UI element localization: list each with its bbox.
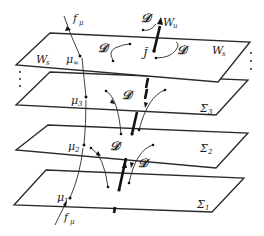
mu-1-point <box>69 197 72 200</box>
sigma-2-sub: 2 <box>207 148 213 156</box>
d-point <box>112 60 115 63</box>
sigma-3-sub: 3 <box>208 108 213 116</box>
d-point <box>107 186 110 189</box>
mu-3-point <box>85 96 88 99</box>
ellipsis-right-icon <box>250 52 252 70</box>
mu-2-sub: 2 <box>74 146 80 154</box>
f-mu-top-label: f <box>72 12 79 25</box>
mu-inf-point <box>79 55 82 58</box>
d-point <box>105 90 108 93</box>
f-mu-bottom-label: f <box>63 211 70 224</box>
segment-point <box>117 188 120 191</box>
d-point <box>90 147 93 150</box>
stable-segment-4 <box>114 207 115 213</box>
d-point <box>129 43 132 46</box>
d-point <box>164 89 167 92</box>
sigma-3-label: Σ <box>199 102 208 115</box>
mu-2-point <box>83 144 86 147</box>
ws-left-sub: s <box>46 59 50 67</box>
d-point <box>142 29 144 31</box>
d-point <box>138 129 141 132</box>
plane-sigma-1 <box>14 170 244 212</box>
mu-3-sub: 3 <box>78 100 83 108</box>
d-point <box>120 133 123 136</box>
sigma-1-sub: 1 <box>205 204 209 212</box>
j-point <box>152 49 156 53</box>
segment-point <box>130 132 133 135</box>
ellipsis-left-icon <box>19 71 21 87</box>
d-point <box>152 144 155 147</box>
foliation-diagram: f μ W s μ ∞ 𝒟 𝒟 W u J̃ 𝒟 W s μ 3 𝒟 Σ 3 μ… <box>0 0 264 236</box>
d-point <box>155 57 158 60</box>
mu-inf-sub: ∞ <box>73 59 79 67</box>
d-label-top-above: 𝒟 <box>141 11 153 25</box>
mu-1-sub: 1 <box>64 197 68 205</box>
ws-right-sub: s <box>222 50 226 58</box>
sigma-2-label: Σ <box>199 142 208 155</box>
f-mu-top-sub: μ <box>79 19 84 27</box>
sigma-1-label: Σ <box>196 198 205 211</box>
diagram-svg: f μ W s μ ∞ 𝒟 𝒟 W u J̃ 𝒟 W s μ 3 𝒟 Σ 3 μ… <box>0 0 264 236</box>
d-point <box>128 182 131 185</box>
wu-sub: u <box>173 22 178 30</box>
f-mu-bottom-sub: μ <box>70 218 75 226</box>
